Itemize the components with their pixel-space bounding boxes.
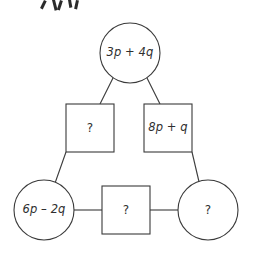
algebra-puzzle-diagram: 3p + 4q ? 8p + q 6p – 2q ? ? xyxy=(0,0,253,254)
node-label-top-circle: 3p + 4q xyxy=(100,43,160,63)
edge-top-circle-to-right-square xyxy=(147,78,160,104)
node-label-right-square: 8p + q xyxy=(142,118,194,138)
node-label-bottom-right-circle: ? xyxy=(184,200,232,220)
node-label-left-square: ? xyxy=(66,118,114,138)
edge-left-square-to-bottom-left-circle xyxy=(54,152,66,186)
node-label-bottom-left-circle: 6p – 2q xyxy=(13,200,75,220)
node-label-bottom-middle-square: ? xyxy=(102,200,150,220)
edge-top-circle-to-left-square xyxy=(100,78,113,104)
